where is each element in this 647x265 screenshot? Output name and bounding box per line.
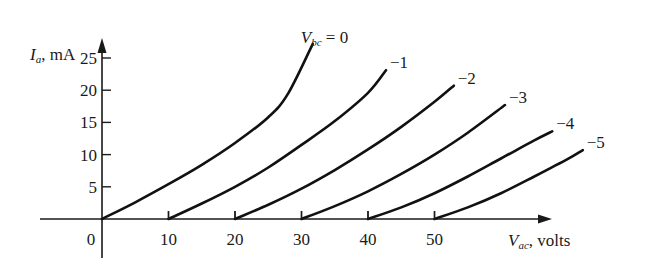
y-tick-label: 15: [80, 113, 97, 132]
x-tick-label: 10: [160, 230, 177, 249]
x-tick-label: 50: [426, 230, 443, 249]
curve-vbc-5: [435, 150, 583, 219]
y-tick-label: 20: [80, 81, 97, 100]
curves: [102, 44, 583, 219]
x-tick-label: 40: [360, 230, 377, 249]
x-axis-label: Vac, volts: [508, 231, 570, 251]
curve-vbc-4: [368, 131, 552, 219]
x-ticks: 01020304050: [87, 211, 443, 249]
x-axis-arrow-icon: [538, 215, 552, 224]
y-tick-label: 5: [89, 178, 98, 197]
curve-label-0: Vbc = 0: [301, 28, 348, 48]
x-tick-label: 0: [87, 230, 96, 249]
curve-label-3: −3: [509, 88, 527, 107]
y-ticks: 510152025: [80, 49, 111, 197]
x-tick-label: 30: [293, 230, 310, 249]
curve-label-2: −2: [458, 69, 476, 88]
curve-vbc-0: [102, 44, 313, 219]
y-axis-label: Ia, mA: [29, 45, 76, 65]
curve-label-4: −4: [556, 114, 575, 133]
characteristic-curves-chart: 01020304050 510152025 Vbc = 0−1−2−3−4−5 …: [0, 0, 647, 265]
y-tick-label: 25: [80, 49, 97, 68]
y-axis-arrow-icon: [98, 38, 107, 53]
x-tick-label: 20: [227, 230, 244, 249]
curve-labels: Vbc = 0−1−2−3−4−5: [301, 28, 605, 152]
curve-label-1: −1: [390, 53, 408, 72]
y-tick-label: 10: [80, 146, 97, 165]
curve-label-5: −5: [587, 133, 605, 152]
